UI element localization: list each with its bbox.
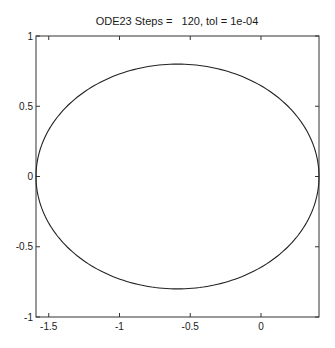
x-tick-label: -1.5 (40, 321, 58, 332)
y-axis-ticks (36, 36, 319, 317)
y-tick-label: -1 (24, 312, 33, 323)
y-axis-tick-labels: -1-0.500.51 (16, 31, 34, 323)
x-tick-label: -1 (115, 321, 124, 332)
y-tick-label: 0 (27, 171, 33, 182)
y-tick-label: -0.5 (16, 241, 34, 252)
axes-frame (36, 36, 319, 317)
x-tick-label: -0.5 (182, 321, 200, 332)
x-tick-label: 0 (258, 321, 264, 332)
x-axis-tick-labels: -1.5-1-0.50 (40, 321, 264, 332)
plot-area: -1.5-1-0.50 -1-0.500.51 (16, 31, 319, 333)
trajectory-ellipse-line (36, 64, 319, 289)
chart-figure: ODE23 Steps = 120, tol = 1e-04 -1.5-1-0.… (0, 0, 335, 348)
chart-title: ODE23 Steps = 120, tol = 1e-04 (96, 15, 259, 27)
x-axis-ticks (49, 36, 261, 317)
y-tick-label: 1 (27, 31, 33, 42)
y-tick-label: 0.5 (19, 101, 33, 112)
